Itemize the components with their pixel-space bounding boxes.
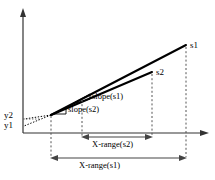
- annotation-slope-s1: slope(s1): [92, 92, 123, 101]
- annotation-xrange-s2: X-range(s2): [92, 140, 133, 149]
- diagram-canvas: [0, 0, 215, 180]
- axis-tick-label-y2: y2: [4, 111, 13, 120]
- annotation-xrange-s1: X-range(s1): [79, 161, 120, 170]
- s1-intercept-extension: [24, 115, 51, 119]
- label-segment-s2: s2: [156, 68, 164, 77]
- y-axis: [20, 8, 26, 133]
- slope-s2-triangle: [53, 108, 66, 114]
- slope-xrange-diagram: s1 s2 y2 y1 slope(s1) slope(s2) X-range(…: [0, 0, 215, 180]
- annotation-slope-s2: slope(s2): [68, 105, 99, 114]
- label-segment-s1: s1: [190, 41, 198, 50]
- s2-intercept-extension: [24, 115, 51, 126]
- axis-tick-label-y1: y1: [4, 121, 13, 130]
